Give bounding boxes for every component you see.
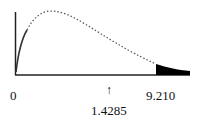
- tick-label-zero: 0: [10, 89, 17, 102]
- tick-label-critical-value: 9.210: [146, 89, 175, 102]
- arrow-marker: ↑: [106, 84, 112, 96]
- rejection-region: [156, 64, 190, 75]
- test-statistic-label: 1.4285: [91, 104, 127, 117]
- density-curve-solid: [16, 30, 27, 72]
- density-curve-dotted: [27, 11, 156, 64]
